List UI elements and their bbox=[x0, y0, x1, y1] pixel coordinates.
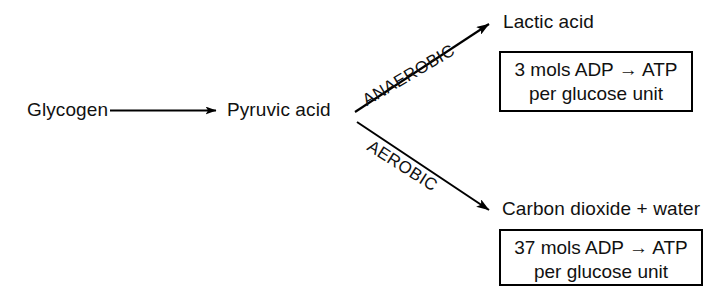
arrow-aerobic-branch bbox=[357, 122, 489, 210]
node-label-glycogen: Glycogen bbox=[27, 100, 108, 119]
energy-yield-box-aerobic: 37 mols ADP → ATP per glucose unit bbox=[499, 229, 703, 286]
energy-yield-aerobic-line1: 37 mols ADP → ATP bbox=[501, 236, 701, 260]
node-label-pyruvic-acid: Pyruvic acid bbox=[227, 100, 331, 119]
node-label-carbon-dioxide-water: Carbon dioxide + water bbox=[502, 199, 700, 218]
energy-yield-box-anaerobic: 3 mols ADP → ATP per glucose unit bbox=[499, 51, 693, 112]
energy-yield-anaerobic-line1: 3 mols ADP → ATP bbox=[501, 58, 691, 82]
energy-yield-anaerobic-line2: per glucose unit bbox=[501, 82, 691, 105]
node-label-lactic-acid: Lactic acid bbox=[503, 12, 594, 31]
energy-yield-aerobic-line2: per glucose unit bbox=[501, 260, 701, 283]
